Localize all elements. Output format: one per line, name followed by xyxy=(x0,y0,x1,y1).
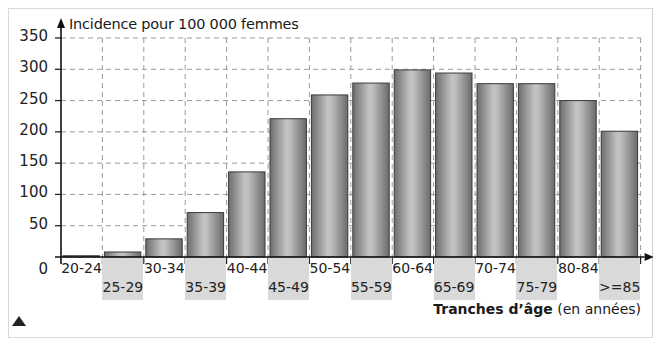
x-tick-label: 30-34 xyxy=(144,260,185,276)
x-axis-title: Tranches d’âge (en années) xyxy=(433,301,641,317)
y-tick-label: 250 xyxy=(8,90,48,108)
x-tick-label: 35-39 xyxy=(185,258,226,300)
x-tick-label: >=85 xyxy=(599,258,640,300)
y-tick-label: 300 xyxy=(8,58,48,76)
x-tick-label: 25-29 xyxy=(102,258,143,300)
bar xyxy=(601,131,637,257)
y-tick-label: 50 xyxy=(8,215,48,233)
x-tick-label: 50-54 xyxy=(309,260,350,276)
corner-marker-icon xyxy=(12,316,26,326)
bar xyxy=(518,84,554,257)
x-tick-label: 40-44 xyxy=(227,260,268,276)
x-axis-title-unit: (en années) xyxy=(553,301,641,317)
bar xyxy=(560,101,596,257)
x-axis-title-bold: Tranches d’âge xyxy=(433,301,553,317)
bar xyxy=(187,213,223,257)
x-tick-label: 55-59 xyxy=(351,258,392,300)
x-tick-label: 20-24 xyxy=(61,260,102,276)
bar xyxy=(394,70,430,257)
y-tick-label: 100 xyxy=(8,183,48,201)
bar xyxy=(270,119,306,257)
y-tick-label: 350 xyxy=(8,27,48,45)
x-tick-label: 80-84 xyxy=(558,260,599,276)
bar xyxy=(436,73,472,257)
y-axis-title: Incidence pour 100 000 femmes xyxy=(69,16,299,32)
bar xyxy=(146,239,182,257)
y-tick-label: 200 xyxy=(8,121,48,139)
bar xyxy=(311,95,347,257)
y-tick-label: 150 xyxy=(8,152,48,170)
x-tick-label: 75-79 xyxy=(516,258,557,300)
bar xyxy=(229,172,265,257)
x-tick-label: 60-64 xyxy=(392,260,433,276)
x-tick-label: 70-74 xyxy=(475,260,516,276)
x-tick-label: 45-49 xyxy=(268,258,309,300)
bar xyxy=(477,84,513,257)
x-tick-label: 65-69 xyxy=(434,258,475,300)
bar xyxy=(353,83,389,257)
y-tick-label: 0 xyxy=(0,260,48,278)
